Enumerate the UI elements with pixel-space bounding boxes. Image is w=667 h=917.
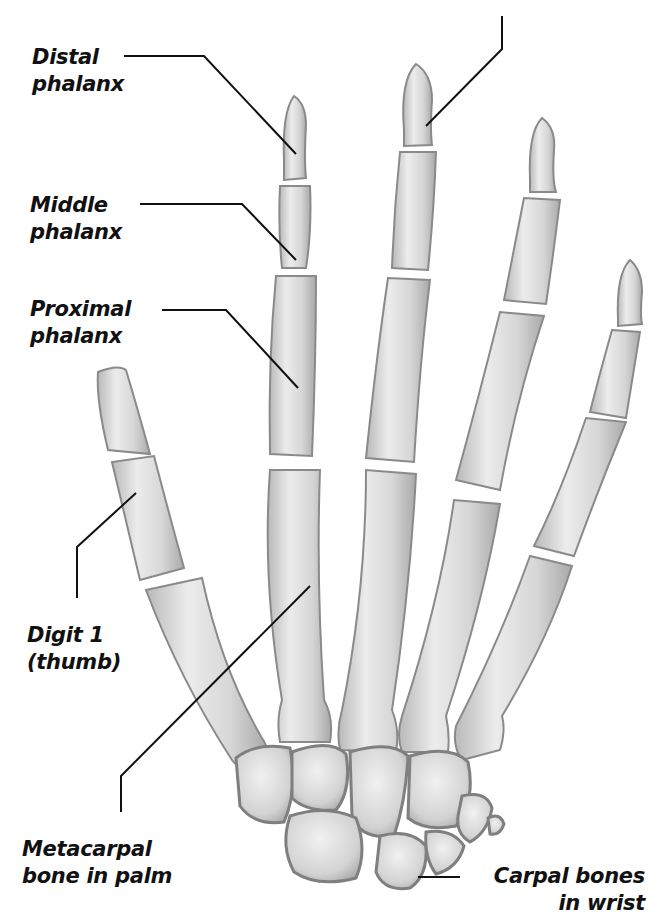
label-digit-1-thumb: Digit 1 (thumb) [27, 622, 121, 676]
label-metacarpal-line1: Metacarpal [22, 836, 172, 863]
leader-middle [140, 204, 296, 260]
label-digit1-line1: Digit 1 [27, 622, 121, 649]
label-digit1-line2: (thumb) [27, 649, 121, 676]
label-middle-line2: phalanx [30, 219, 122, 246]
label-metacarpal-line2: bone in palm [22, 863, 172, 890]
leader-top-distal [426, 16, 502, 126]
label-distal-line2: phalanx [32, 71, 124, 98]
label-distal-phalanx: Distal phalanx [32, 44, 124, 98]
digit-1-thumb [98, 367, 267, 770]
label-middle-phalanx: Middle phalanx [30, 192, 122, 246]
leader-distal [124, 56, 296, 154]
label-carpal-line2: in wrist [494, 890, 645, 917]
digit-2 [268, 96, 331, 742]
label-metacarpal-bone: Metacarpal bone in palm [22, 836, 172, 890]
label-proximal-line1: Proximal [30, 296, 131, 323]
hand-bones-diagram: Distal phalanx Middle phalanx Proximal p… [0, 0, 667, 917]
label-proximal-phalanx: Proximal phalanx [30, 296, 131, 350]
label-distal-line1: Distal [32, 44, 124, 71]
label-middle-line1: Middle [30, 192, 122, 219]
bones [98, 64, 642, 771]
label-carpal-line1: Carpal bones [494, 863, 645, 890]
label-proximal-line2: phalanx [30, 323, 131, 350]
label-carpal-bones: Carpal bones in wrist [494, 863, 645, 917]
hand-skeleton-illustration [0, 0, 667, 917]
carpal-bones [236, 745, 504, 888]
